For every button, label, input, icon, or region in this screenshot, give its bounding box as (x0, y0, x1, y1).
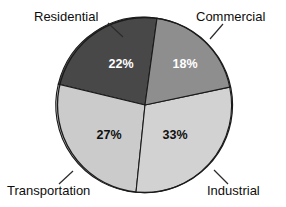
slice-value-transportation: 27% (92, 128, 126, 142)
pie-chart-svg (0, 0, 286, 207)
category-label-transportation: Transportation (7, 183, 90, 198)
slice-value-commercial: 18% (168, 57, 202, 71)
slice-value-industrial: 33% (158, 128, 192, 142)
leader-line-industrial (214, 170, 228, 184)
pie-chart-figure: 22% 18% 27% 33% Residential Commercial T… (0, 0, 286, 207)
slice-value-residential: 22% (104, 57, 138, 71)
leader-line-commercial (210, 24, 223, 39)
category-label-industrial: Industrial (207, 183, 260, 198)
category-label-commercial: Commercial (196, 9, 265, 24)
category-label-residential: Residential (34, 9, 98, 24)
